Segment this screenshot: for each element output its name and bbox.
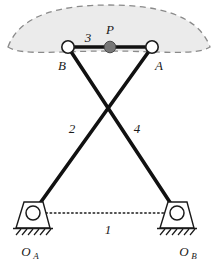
joint-a-circle [146, 41, 158, 53]
label-link-4: 4 [134, 121, 141, 136]
label-joint-a: A [154, 58, 163, 73]
label-pivot-ob-subscript: B [191, 251, 197, 261]
label-link-2: 2 [69, 121, 76, 136]
label-pivot-oa-subscript: A [32, 251, 39, 261]
pivot-oa-joint-circle [26, 206, 40, 220]
pivot-oa-hatching [16, 229, 51, 235]
label-link-1: 1 [105, 222, 112, 237]
pivot-support-ob [157, 202, 197, 235]
label-pivot-oa-main: O [21, 244, 31, 259]
label-pivot-ob-main: O [179, 244, 189, 259]
pivot-support-oa [13, 202, 53, 235]
joint-b-circle [62, 41, 74, 53]
label-pivot-ob: O B [179, 244, 197, 261]
linkage-diagram: B A P 3 2 4 1 O A O B [0, 0, 218, 264]
label-link-3: 3 [84, 30, 92, 45]
coupler-point-p-circle [104, 41, 116, 53]
pivot-ob-joint-circle [170, 206, 184, 220]
label-joint-b: B [58, 58, 66, 73]
pivot-ob-hatching [160, 229, 195, 235]
label-coupler-point-p: P [105, 22, 114, 37]
label-pivot-oa: O A [21, 244, 39, 261]
linkage-diagram-canvas: B A P 3 2 4 1 O A O B [0, 0, 218, 264]
